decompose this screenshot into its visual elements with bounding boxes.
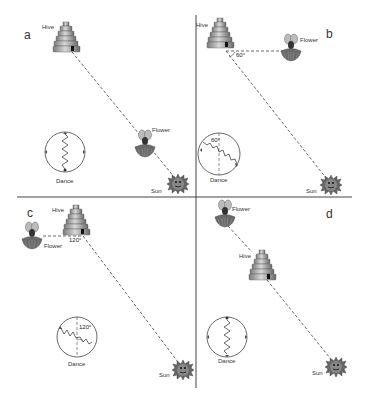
dance-circle xyxy=(207,317,247,358)
flower-icon xyxy=(281,34,301,61)
angle-label: 60° xyxy=(236,52,245,58)
panel-c xyxy=(22,205,194,380)
hive-icon xyxy=(249,250,276,280)
hive-icon xyxy=(63,205,90,235)
dance-label: Dance xyxy=(210,177,227,183)
sun-icon xyxy=(167,174,189,194)
sun-label: Sun xyxy=(306,188,317,194)
hive-icon xyxy=(207,18,234,48)
dance-circle xyxy=(45,132,85,172)
sun-label: Sun xyxy=(151,188,162,194)
panel-letter-b: b xyxy=(326,27,333,41)
hive-to-sun-path xyxy=(72,52,175,178)
hive-to-sun-path xyxy=(83,236,178,362)
dance-angle-label: 60° xyxy=(211,137,220,143)
flower-label: Flower xyxy=(44,243,62,249)
flower-to-hive-path xyxy=(228,226,252,252)
panel-letter-a: a xyxy=(24,28,31,42)
sun-label: Sun xyxy=(312,370,323,376)
bee-dance-diagram xyxy=(0,0,367,398)
panel-d xyxy=(207,200,347,377)
panel-a xyxy=(45,22,189,194)
hive-label: Hive xyxy=(42,24,54,30)
hive-to-sun-path xyxy=(226,51,326,178)
sun-icon xyxy=(325,357,347,377)
angle-label: 120° xyxy=(69,237,81,243)
hive-icon xyxy=(53,22,80,52)
flower-label: Flower xyxy=(232,206,250,212)
dance-circle xyxy=(57,317,97,357)
sun-icon xyxy=(320,175,342,195)
panel-b xyxy=(198,18,342,195)
hive-label: Hive xyxy=(52,207,64,213)
flower-icon xyxy=(135,130,155,157)
hive-to-sun-path xyxy=(267,280,330,358)
dance-angle-label: 120° xyxy=(79,324,91,330)
panel-letter-d: d xyxy=(326,207,333,221)
hive-label: Hive xyxy=(239,253,251,259)
dance-label: Dance xyxy=(218,358,235,364)
dance-label: Dance xyxy=(68,361,85,367)
flower-label: Flower xyxy=(152,127,170,133)
hive-label: Hive xyxy=(196,22,208,28)
sun-label: Sun xyxy=(159,372,170,378)
flower-icon xyxy=(215,200,235,227)
flower-icon xyxy=(22,222,42,249)
panel-letter-c: c xyxy=(27,206,33,220)
flower-label: Flower xyxy=(300,37,318,43)
dance-label: Dance xyxy=(56,178,73,184)
sun-icon xyxy=(172,360,194,380)
